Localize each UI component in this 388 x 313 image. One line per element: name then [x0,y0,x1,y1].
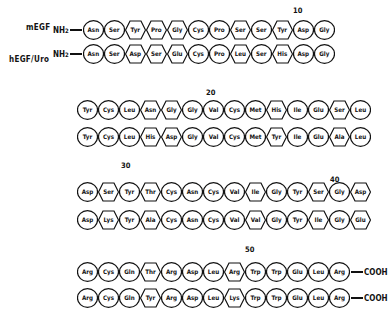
residue-cys: Cys [98,288,119,308]
residue-glu-substituted: Glu [350,210,371,230]
residue-tyr: Tyr [77,100,98,120]
residue-ser: Ser [251,20,272,40]
residue-ser: Ser [104,44,125,64]
residue-gly-substituted: Gly [161,100,182,120]
residue-cys: Cys [98,262,119,282]
residue-asn: Asn [83,44,104,64]
residue-val: Val [224,210,245,230]
residue-gly: Gly [329,182,350,202]
residue-tyr: Tyr [287,182,308,202]
residue-met: Met [245,127,266,147]
residue-asn: Asn [182,210,203,230]
residue-leu: Leu [350,127,371,147]
residue-gly: Gly [314,20,335,40]
residue-gly: Gly [329,210,350,230]
residue-tyr-substituted: Tyr [140,288,161,308]
residue-ser-substituted: Ser [308,182,329,202]
residue-gly: Gly [182,127,203,147]
residue-cys: Cys [224,127,245,147]
hEGF-chain-row-1: NH2AsnSerAspSerGluCysProLeuSerHisAspGly [53,44,335,64]
hEGF-chain-row-3: AspLysTyrAlaCysAsnCysValValGlyTyrIleGlyG… [77,210,371,230]
hEGF-chain-row-2: TyrCysLeuHisAspGlyValCysMetTyrIleGluAlaL… [77,127,371,147]
residue-val-substituted: Val [245,210,266,230]
residue-lys-substituted: Lys [224,288,245,308]
residue-leu: Leu [308,288,329,308]
residue-val: Val [203,100,224,120]
marker-30: 30 [121,161,130,170]
residue-ile: Ile [287,100,308,120]
residue-ile-substituted: Ile [245,182,266,202]
marker-10: 10 [293,6,302,15]
residue-val: Val [203,127,224,147]
residue-asn: Asn [182,182,203,202]
residue-glu: Glu [287,262,308,282]
mEGF-label: mEGF [26,23,50,32]
residue-gly: Gly [314,44,335,64]
residue-cys: Cys [203,210,224,230]
residue-trp: Trp [266,262,287,282]
residue-lys-substituted: Lys [98,210,119,230]
residue-tyr: Tyr [287,210,308,230]
residue-ser-substituted: Ser [146,44,167,64]
residue-arg: Arg [329,288,350,308]
residue-ser-substituted: Ser [230,20,251,40]
n-terminus: NH2 [53,50,83,59]
residue-tyr: Tyr [119,182,140,202]
bond-line [70,53,82,54]
residue-his-substituted: His [266,100,287,120]
residue-gly: Gly [266,182,287,202]
residue-leu: Leu [119,127,140,147]
c-terminus: COOH [350,268,388,277]
residue-tyr: Tyr [119,210,140,230]
residue-ser-substituted: Ser [329,100,350,120]
residue-glu: Glu [287,288,308,308]
residue-gln: Gln [119,288,140,308]
residue-ala-substituted: Ala [140,210,161,230]
residue-asp-substituted: Asp [161,127,182,147]
bond-line [351,271,363,272]
residue-glu-substituted: Glu [167,44,188,64]
mEGF-chain-row-1: NH2AsnSerTyrProGlyCysProSerSerTyrAspGly [53,20,335,40]
marker-40: 40 [330,175,339,184]
residue-arg: Arg [161,262,182,282]
residue-gly: Gly [266,210,287,230]
residue-glu: Glu [308,100,329,120]
residue-asp: Asp [77,182,98,202]
residue-gly-substituted: Gly [167,20,188,40]
residue-gly: Gly [182,100,203,120]
residue-tyr-substituted: Tyr [125,20,146,40]
residue-asp: Asp [182,288,203,308]
residue-cys: Cys [161,210,182,230]
residue-leu: Leu [203,262,224,282]
residue-cys: Cys [98,100,119,120]
hEGF-label: hEGF/Uro [9,55,49,64]
hEGF-chain-row-4: ArgCysGlnTyrArgAspLeuLysTrpTrpGluLeuArgC… [77,288,388,308]
residue-cys: Cys [224,100,245,120]
residue-pro: Pro [209,20,230,40]
residue-cys: Cys [98,127,119,147]
residue-leu: Leu [119,100,140,120]
residue-cys: Cys [203,182,224,202]
residue-asp: Asp [293,20,314,40]
residue-trp: Trp [266,288,287,308]
residue-leu: Leu [308,262,329,282]
mEGF-chain-row-3: AspSerTyrThrCysAsnCysValIleGlyTyrSerGlyA… [77,182,371,202]
bond-line [70,29,82,30]
residue-ala-substituted: Ala [329,127,350,147]
residue-tyr-substituted: Tyr [266,127,287,147]
residue-asp: Asp [182,262,203,282]
residue-leu: Leu [350,100,371,120]
residue-ile-substituted: Ile [308,210,329,230]
residue-asn: Asn [83,20,104,40]
c-terminus: COOH [350,294,388,303]
residue-arg: Arg [77,262,98,282]
residue-ser-substituted: Ser [98,182,119,202]
residue-thr-substituted: Thr [140,262,161,282]
residue-val: Val [224,182,245,202]
residue-his-substituted: His [272,44,293,64]
residue-tyr-substituted: Tyr [272,20,293,40]
residue-asp: Asp [77,210,98,230]
residue-tyr: Tyr [77,127,98,147]
residue-glu: Glu [308,127,329,147]
residue-ile: Ile [287,127,308,147]
